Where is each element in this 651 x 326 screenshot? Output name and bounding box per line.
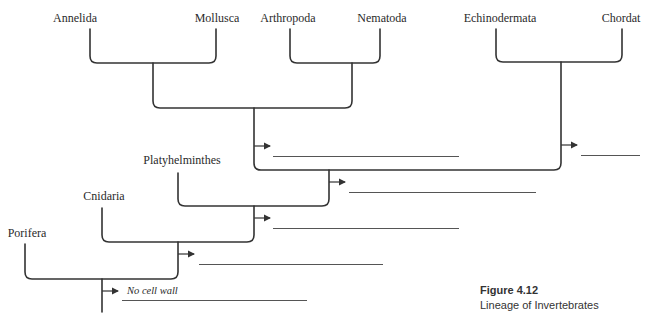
clade-arthropoda-nematoda — [290, 29, 380, 63]
clade-bilateria — [178, 170, 329, 206]
figure-number: Figure 4.12 — [480, 284, 538, 296]
taxon-annelida: Annelida — [53, 11, 97, 26]
taxon-porifera: Porifera — [8, 226, 47, 241]
clade-annelida-mollusca — [90, 29, 216, 63]
clade-protostomes — [153, 63, 352, 108]
blank-line-4[interactable] — [349, 192, 536, 193]
clade-metazoa — [25, 242, 178, 279]
taxon-cnidaria: Cnidaria — [83, 189, 124, 204]
taxon-arthropoda: Arthropoda — [260, 11, 315, 26]
blank-line-2[interactable] — [199, 264, 383, 265]
taxon-nematoda: Nematoda — [357, 11, 406, 26]
taxon-platyhelminthes: Platyhelminthes — [143, 153, 220, 168]
blank-line-1[interactable] — [122, 300, 307, 301]
clade-bilateria-upper — [254, 62, 561, 170]
figure-caption: Lineage of Invertebrates — [480, 299, 599, 311]
cladogram — [0, 0, 651, 326]
clade-eumetazoa — [102, 206, 254, 242]
taxon-mollusca: Mollusca — [195, 11, 240, 26]
character-label-no-cell-wall: No cell wall — [127, 285, 178, 296]
blank-line-3[interactable] — [273, 228, 459, 229]
taxon-chordata: Chordat — [602, 11, 641, 26]
clade-deuterostomes — [496, 29, 622, 62]
blank-line-5[interactable] — [273, 156, 459, 157]
blank-line-6[interactable] — [581, 155, 640, 156]
taxon-echinodermata: Echinodermata — [464, 11, 537, 26]
